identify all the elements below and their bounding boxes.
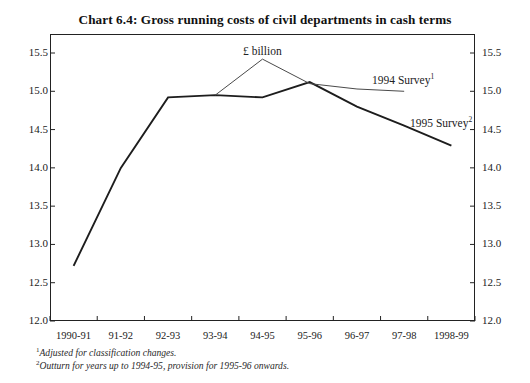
y-tick-label-left: 14.0 — [29, 162, 48, 173]
y-tick-label-right: 14.0 — [482, 162, 501, 173]
page-title: Chart 6.4: Gross running costs of civil … — [0, 12, 530, 28]
y-tick-label-right: 14.5 — [482, 124, 501, 135]
y-tick-label-right: 13.0 — [482, 238, 501, 249]
footnote: 1Adjusted for classification changes. — [36, 346, 289, 359]
x-tick-label: 92-93 — [156, 330, 181, 341]
y-tick-label-right: 12.5 — [482, 277, 501, 288]
x-tick-label: 97-98 — [392, 330, 417, 341]
y-tick-label-left: 13.0 — [29, 238, 48, 249]
x-tick-label: 96-97 — [345, 330, 370, 341]
y-tick-label-left: 12.0 — [29, 315, 48, 326]
series-label-1995-survey: 1995 Survey2 — [410, 115, 472, 129]
x-tick-label: 1990-91 — [56, 330, 91, 341]
x-tick-label: 91-92 — [109, 330, 134, 341]
series-label-1994-survey: 1994 Survey1 — [372, 72, 434, 86]
y-tick-label-left: 14.5 — [29, 124, 48, 135]
x-tick-label: 94-95 — [250, 330, 275, 341]
y-tick-label-right: 13.5 — [482, 200, 501, 211]
y-tick-label-right: 15.5 — [482, 47, 501, 58]
y-tick-label-left: 12.5 — [29, 277, 48, 288]
y-tick-label-right: 12.0 — [482, 315, 501, 326]
y-tick-label-left: 15.0 — [29, 85, 48, 96]
y-tick-label-right: 15.0 — [482, 85, 501, 96]
y-tick-label-left: 13.5 — [29, 200, 48, 211]
footnotes: 1Adjusted for classification changes.2Ou… — [36, 346, 289, 373]
x-tick-label: 1998-99 — [434, 330, 469, 341]
axis-unit-label: £ billion — [243, 45, 282, 57]
y-tick-label-left: 15.5 — [29, 47, 48, 58]
x-tick-label: 95-96 — [297, 330, 322, 341]
footnote: 2Outturn for years up to 1994-95, provis… — [36, 359, 289, 372]
chart-page: Chart 6.4: Gross running costs of civil … — [0, 0, 530, 383]
x-tick-label: 93-94 — [203, 330, 228, 341]
